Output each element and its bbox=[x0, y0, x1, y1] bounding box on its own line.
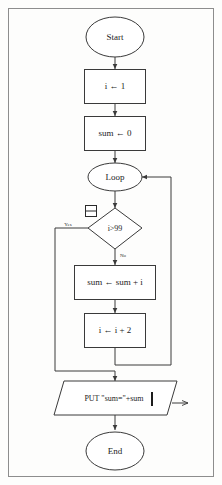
edge-label-yes: Yes bbox=[64, 222, 71, 227]
node-output-label: PUT "sum="+sum bbox=[84, 394, 144, 403]
node-init-i-label: i ← 1 bbox=[105, 81, 126, 91]
edge-label-no: No bbox=[120, 253, 127, 258]
edge-decision-yes-to-output bbox=[55, 228, 115, 381]
note-icon[interactable] bbox=[86, 206, 97, 217]
text-caret bbox=[151, 392, 153, 406]
flowchart-svg: Start i ← 1 sum ← 0 Loop i>99 Yes No sum… bbox=[0, 0, 222, 485]
node-loop-label: Loop bbox=[106, 172, 125, 182]
node-init-sum-label: sum ← 0 bbox=[98, 128, 132, 138]
node-incr-label: i ← i + 2 bbox=[99, 325, 132, 335]
node-start-label: Start bbox=[107, 32, 124, 42]
node-decision-label: i>99 bbox=[108, 224, 123, 233]
node-accum-label: sum ← sum + i bbox=[87, 277, 143, 287]
flowchart-canvas: Start i ← 1 sum ← 0 Loop i>99 Yes No sum… bbox=[0, 0, 222, 485]
node-end-label: End bbox=[108, 446, 123, 456]
